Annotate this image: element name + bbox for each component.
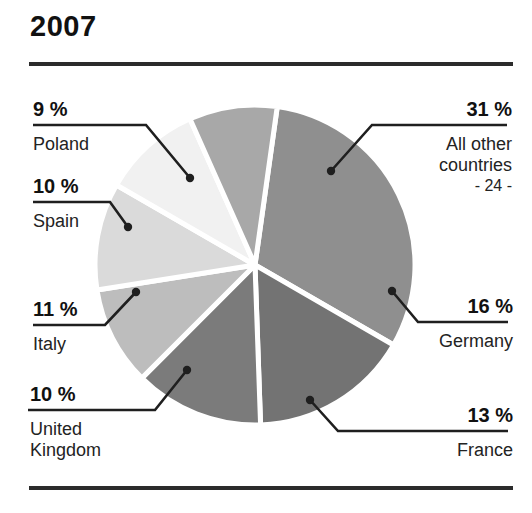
leader-dot — [124, 223, 132, 231]
pie-label-percent: 9 % — [33, 98, 89, 120]
pie-label-name: Poland — [33, 134, 89, 155]
pie-slices — [95, 105, 415, 425]
pie-label: 31 %All othercountries- 24 - — [439, 98, 512, 195]
pie-label: 13 %France — [457, 404, 513, 461]
pie-label-name: Kingdom — [30, 440, 101, 461]
pie-label-percent: 13 % — [457, 404, 513, 426]
pie-label-percent: 11 % — [33, 298, 77, 320]
pie-label-name: Germany — [439, 331, 513, 352]
pie-label: 16 %Germany — [439, 295, 513, 352]
leader-dot — [183, 366, 191, 374]
chart-page: 2007 31 %All othercountries- 24 -16 %Ger… — [0, 0, 532, 513]
pie-label-name: Spain — [33, 211, 79, 232]
pie-label: 11 %Italy — [33, 298, 77, 355]
pie-label-percent: 31 % — [439, 98, 512, 120]
leader-dot — [388, 287, 396, 295]
leader-dot — [327, 167, 335, 175]
leader-dot — [306, 396, 314, 404]
pie-label: 10 %UnitedKingdom — [30, 383, 101, 461]
leader-dot — [186, 174, 194, 182]
pie-label-sublabel: - 24 - — [439, 176, 512, 195]
pie-label: 9 %Poland — [33, 98, 89, 155]
pie-label-percent: 10 % — [30, 383, 101, 405]
pie-label-percent: 16 % — [439, 295, 513, 317]
pie-label-name: All other — [439, 134, 512, 155]
pie-label-name: France — [457, 440, 513, 461]
pie-label-name: Italy — [33, 334, 77, 355]
pie-label-percent: 10 % — [33, 175, 79, 197]
pie-label-name: countries — [439, 155, 512, 176]
pie-label-name: United — [30, 419, 101, 440]
leader-dot — [132, 288, 140, 296]
pie-label: 10 %Spain — [33, 175, 79, 232]
